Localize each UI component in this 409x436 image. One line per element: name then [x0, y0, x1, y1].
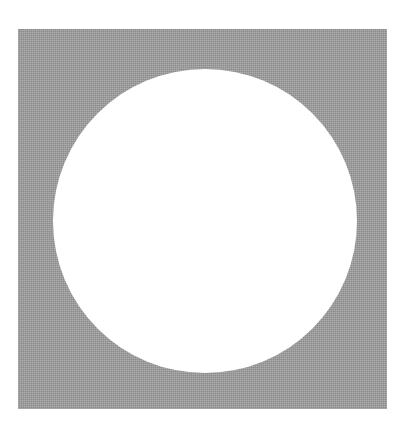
white-circle-shape — [53, 69, 357, 373]
figure-canvas — [0, 0, 409, 436]
